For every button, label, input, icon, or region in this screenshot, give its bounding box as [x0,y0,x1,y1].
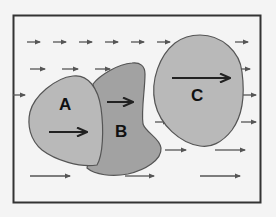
label-a: A [59,95,71,114]
diagram-canvas: A B C [0,0,276,217]
label-b: B [115,122,127,141]
label-c: C [191,86,203,105]
